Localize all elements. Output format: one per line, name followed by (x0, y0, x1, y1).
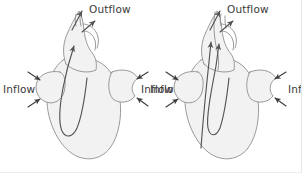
right-diagram-inflow-label-right: Inflow (288, 83, 302, 95)
right-diagram-great-vessel-trunk (202, 11, 235, 72)
left-diagram-inflow-arrow-upper-right (137, 72, 148, 79)
left-diagram-inflow-arrow-lower-right (137, 98, 148, 106)
right-diagram-inflow-arrow-lower-left (166, 99, 178, 107)
right-diagram-vessel-finger-2 (225, 16, 226, 28)
right-diagram-inflow-arrow-upper-left (166, 72, 178, 80)
heart-flow-figure: Outflow Inflow Inflow (0, 0, 302, 173)
left-heart-diagram: Outflow Inflow Inflow (3, 3, 183, 159)
diagram-canvas: Outflow Inflow Inflow (0, 0, 302, 173)
right-diagram-right-atrium (247, 70, 276, 102)
left-diagram-outflow-label: Outflow (89, 3, 131, 15)
left-diagram-inflow-arrow-upper-left (28, 72, 40, 80)
right-diagram-left-atrium (174, 71, 203, 102)
left-diagram-inflow-arrow-lower-left (28, 99, 40, 107)
right-diagram-inflow-label-left: Inflow (141, 83, 174, 95)
left-diagram-inflow-label-left: Inflow (3, 83, 36, 95)
right-diagram-inflow-arrow-upper-right (275, 72, 286, 79)
right-heart-diagram: Outflow Inflow Inflow (141, 3, 302, 159)
right-diagram-outflow-label: Outflow (227, 3, 269, 15)
right-diagram-inflow-arrow-lower-right (275, 98, 286, 106)
right-diagram-vessel-finger-1 (220, 14, 221, 26)
left-diagram-right-atrium (109, 70, 138, 102)
